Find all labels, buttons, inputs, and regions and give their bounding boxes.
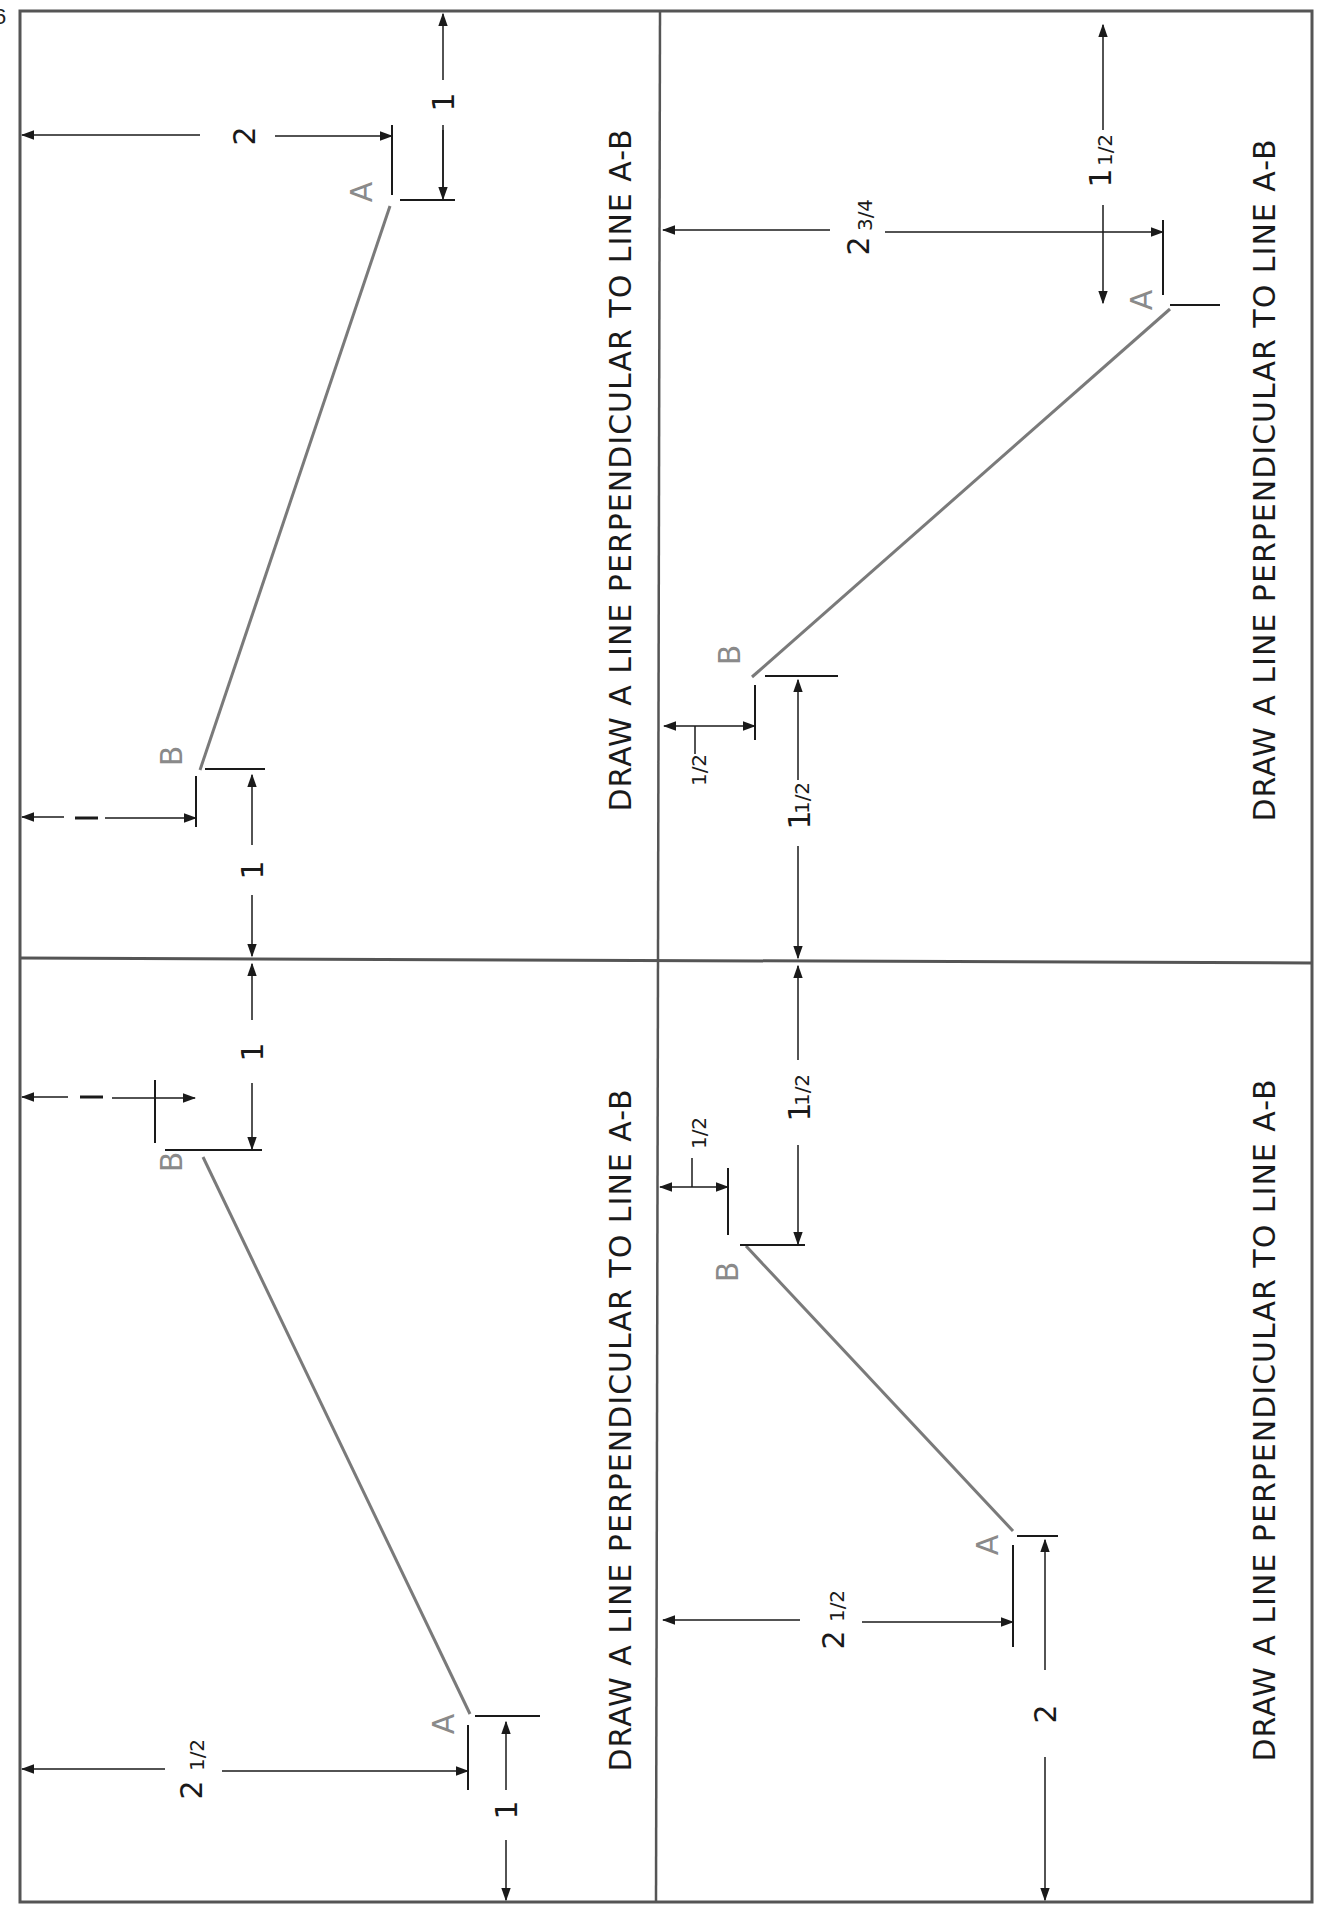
panel-1: 2 1 A B 1 DRAW A LINE PERPENDICULAR TO L… [22, 14, 638, 956]
page-number: 6 [0, 4, 6, 30]
point-a-label: A [426, 1713, 461, 1734]
dim-a-left-whole: 2 [816, 1630, 851, 1649]
dim-a-left-whole: 2 [841, 236, 876, 255]
sheet-frame [20, 11, 1312, 1902]
panel-4: B 1/2 1 1/2 A 2 1/2 2 DRAW [660, 966, 1282, 1900]
dim-b-left-frac: 1/2 [687, 1117, 711, 1149]
panel-2: B 1 A 2 1/2 1 DRAW A LINE PERPE [22, 964, 638, 1900]
dim-b-left-frac: 1/2 [687, 754, 711, 786]
instruction-text: DRAW A LINE PERPENDICULAR TO LINE A-B [1247, 1078, 1282, 1761]
drawing-canvas: 2 1 A B 1 DRAW A LINE PERPENDICULAR TO L… [0, 0, 1325, 1907]
worksheet: 6 2 1 A [0, 0, 1325, 1907]
dim-a-top-whole: 1 [1083, 168, 1118, 187]
dim-a-left-whole: 2 [174, 1780, 209, 1799]
dim-a-top: 1 [426, 92, 461, 111]
line-a-b [752, 309, 1170, 677]
point-b-label: B [712, 645, 747, 666]
point-b-label: B [154, 746, 189, 767]
dim-b-divider-frac: 1/2 [790, 782, 814, 814]
point-a-label: A [344, 181, 379, 202]
dim-b-divider: 1 [235, 860, 270, 879]
dim-b-divider: 1 [235, 1042, 270, 1061]
instruction-text: DRAW A LINE PERPENDICULAR TO LINE A-B [603, 128, 638, 811]
dim-a-left-frac: 1/2 [825, 1590, 849, 1622]
dim-b-divider-frac: 1/2 [790, 1074, 814, 1106]
point-b-label: B [154, 1152, 189, 1173]
dim-a-left-frac: 1/2 [185, 1739, 209, 1771]
instruction-text: DRAW A LINE PERPENDICULAR TO LINE A-B [1247, 138, 1282, 821]
line-a-b [203, 1157, 470, 1714]
line-a-b [200, 206, 390, 770]
point-a-label: A [970, 1534, 1005, 1555]
dim-a-left-frac: 3/4 [853, 199, 877, 231]
dim-a-top-frac: 1/2 [1093, 134, 1117, 166]
instruction-text: DRAW A LINE PERPENDICULAR TO LINE A-B [603, 1088, 638, 1771]
line-a-b [746, 1246, 1013, 1531]
point-a-label: A [1124, 289, 1159, 310]
panel-3: A 2 3/4 1 1/2 B 1/2 1 1/2 [663, 25, 1282, 958]
dim-a-left: 2 [227, 126, 262, 145]
dim-a-bottom: 2 [1028, 1704, 1063, 1723]
point-b-label: B [710, 1262, 745, 1283]
dim-a-bottom: 1 [489, 1800, 524, 1819]
